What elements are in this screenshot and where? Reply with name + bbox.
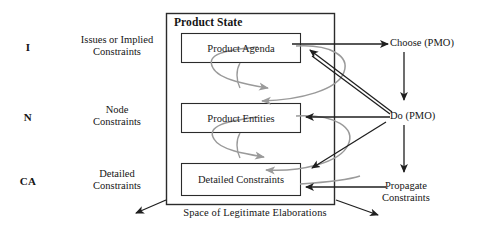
operation-choose-pmo: Choose (PMO): [390, 37, 454, 49]
product-entities-box[interactable]: Product Entities: [181, 103, 301, 133]
curve-stub-lower: [237, 133, 240, 158]
curve-tail-bottom: [300, 176, 360, 184]
tier-code-i: I: [8, 41, 48, 54]
space-of-legitimate-elaborations-label: Space of Legitimate Elaborations: [144, 207, 366, 219]
operation-propagate-constraints: Propagate Constraints: [382, 180, 430, 205]
diagram-canvas: Choose (PMO) --> Do (PMO) (vertical) -->…: [0, 0, 494, 241]
tier-code-ca: CA: [8, 175, 48, 188]
arrow-feedback-to-agenda: [310, 50, 392, 112]
detailed-constraints-label: Detailed Constraints: [181, 174, 301, 185]
product-agenda-box[interactable]: Product Agenda: [181, 33, 301, 63]
arrow-crossing-to-do-row: [312, 56, 390, 114]
detailed-constraints-box[interactable]: Detailed Constraints: [181, 163, 301, 196]
product-state-title: Product State: [174, 16, 242, 30]
tier-desc-node: Node Constraints: [62, 104, 172, 129]
arrow-feedback-to-detailed: [312, 122, 386, 168]
tier-desc-detailed: Detailed Constraints: [62, 168, 172, 193]
operation-do-pmo: Do (PMO): [390, 110, 435, 122]
product-agenda-label: Product Agenda: [181, 43, 301, 54]
curve-stub-upper: [237, 63, 240, 88]
product-entities-label: Product Entities: [181, 113, 301, 124]
tier-code-n: N: [8, 111, 48, 124]
tier-desc-issues: Issues or Implied Constraints: [62, 34, 172, 59]
